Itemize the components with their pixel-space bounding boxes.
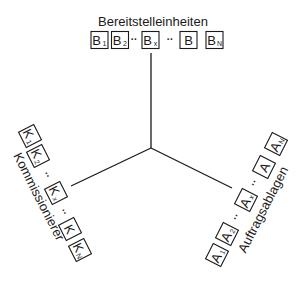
box-bn: BN bbox=[206, 32, 223, 49]
ellipsis-text: ·· bbox=[167, 34, 174, 45]
axis-auftragsablagen bbox=[151, 148, 232, 188]
box-a1: A1 bbox=[206, 244, 229, 267]
label-auftragsablagen: Auftragsablagen bbox=[235, 164, 291, 255]
box-k1: K1 bbox=[19, 125, 42, 148]
ellipsis-dots: ·· bbox=[41, 169, 54, 180]
group-bereitstelleinheiten: B1B2··Bx··BBN bbox=[91, 32, 223, 49]
axis-kommissionierer bbox=[71, 148, 151, 186]
ellipsis-dots: ·· bbox=[58, 206, 71, 217]
diagram-canvas: Bereitstelleinheiten Kommissionierer Auf… bbox=[0, 0, 307, 289]
box-ax: Ax bbox=[235, 189, 258, 212]
box-label: B bbox=[184, 33, 193, 48]
ellipsis-text: ·· bbox=[41, 169, 54, 180]
label-bereitstelleinheiten: Bereitstelleinheiten bbox=[98, 14, 208, 29]
box-bx: Bx bbox=[142, 32, 159, 49]
box-b1: B1 bbox=[91, 32, 108, 49]
ellipsis-dots: ·· bbox=[229, 211, 242, 222]
ellipsis-dots: ·· bbox=[247, 177, 260, 188]
box-b: B bbox=[180, 32, 197, 49]
box-subscript: x bbox=[154, 40, 158, 47]
three-axis-diagram: Bereitstelleinheiten Kommissionierer Auf… bbox=[0, 0, 307, 289]
ellipsis-text: ·· bbox=[229, 211, 242, 222]
ellipsis-text: ·· bbox=[58, 206, 71, 217]
box-subscript: N bbox=[217, 40, 222, 47]
box-subscript: 1 bbox=[103, 40, 107, 47]
box-kn: KN bbox=[69, 239, 92, 262]
box-label: B bbox=[113, 33, 122, 48]
ellipsis-text: ·· bbox=[247, 177, 260, 188]
ellipsis-dots: ·· bbox=[167, 34, 174, 45]
ellipsis-text: ·· bbox=[131, 34, 138, 45]
box-label: B bbox=[143, 33, 152, 48]
box-a2: A2 bbox=[216, 223, 239, 246]
box-an: AN bbox=[265, 133, 288, 156]
axes bbox=[71, 53, 232, 188]
box-b2: B2 bbox=[112, 32, 129, 49]
ellipsis-dots: ·· bbox=[131, 34, 138, 45]
box-label: B bbox=[92, 33, 101, 48]
box-label: B bbox=[207, 33, 216, 48]
box-subscript: 2 bbox=[123, 40, 127, 47]
